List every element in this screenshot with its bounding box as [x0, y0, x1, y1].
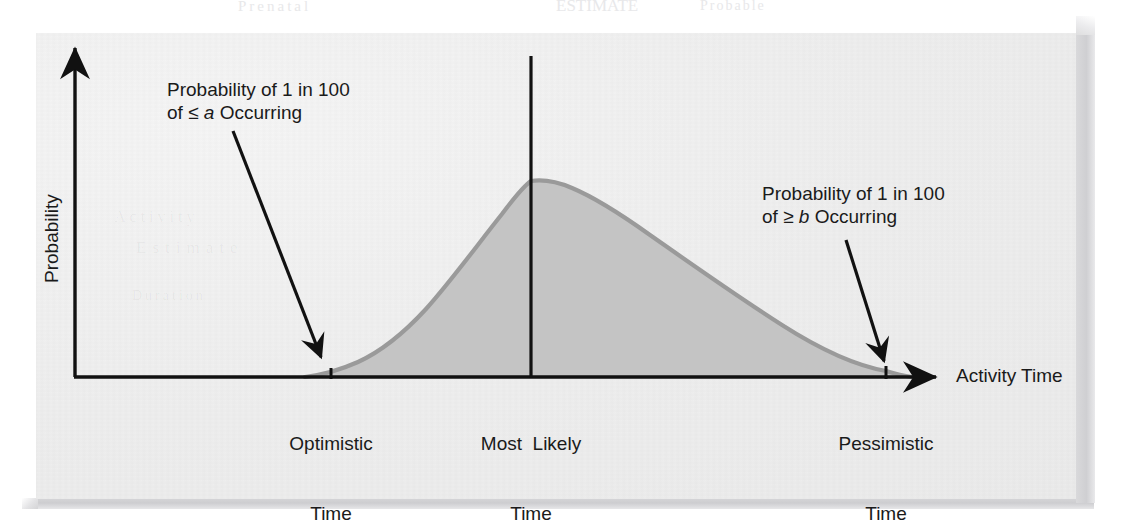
x-axis-label: Activity Time — [956, 364, 1063, 387]
tick-label-pessimistic: Pessimistic Time (b ) — [796, 386, 976, 523]
tick-label-a-line1: Optimistic — [241, 432, 421, 455]
tick-label-most-likely: Most Likely Time (m ) — [441, 386, 621, 523]
left-annotation-line2-pre: of — [167, 102, 188, 123]
tick-label-m-line1: Most Likely — [441, 432, 621, 455]
right-annotation-line1: Probability of 1 in 100 — [762, 183, 945, 204]
tick-label-b-line1: Pessimistic — [796, 432, 976, 455]
left-annotation-operator: ≤ — [188, 102, 204, 123]
right-annotation-variable: b — [799, 206, 810, 227]
right-annotation-line2-post: Occurring — [809, 206, 897, 227]
right-annotation-label: Probability of 1 in 100of ≥ b Occurring — [762, 182, 945, 228]
left-annotation-line2-post: Occurring — [214, 102, 302, 123]
right-annotation-arrow — [846, 240, 884, 361]
tick-label-a-line2: Time — [241, 502, 421, 523]
right-annotation-operator: ≥ — [783, 206, 799, 227]
left-annotation-label: Probability of 1 in 100of ≤ a Occurring — [167, 78, 350, 124]
left-annotation-line1: Probability of 1 in 100 — [167, 79, 350, 100]
tick-label-optimistic: Optimistic Time (a ) — [241, 386, 421, 523]
tick-label-m-line2: Time — [441, 502, 621, 523]
left-annotation-variable: a — [204, 102, 215, 123]
y-axis-label: Probability — [40, 194, 63, 283]
right-annotation-line2-pre: of — [762, 206, 783, 227]
left-annotation-arrow — [233, 131, 321, 357]
tick-label-b-line2: Time — [796, 502, 976, 523]
